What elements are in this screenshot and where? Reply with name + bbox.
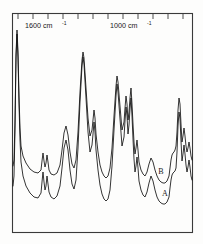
axis-label-1000: 1000 cm xyxy=(110,21,138,30)
axis-ticks xyxy=(18,14,183,20)
axis-label-1600: 1600 cm xyxy=(25,21,53,30)
axis-label-1600-superscript: -1 xyxy=(62,20,67,26)
spectrum-figure: 1600 cm -1 1000 cm -1 B A xyxy=(0,0,203,244)
trace-label-a: A xyxy=(162,189,168,198)
plot-frame xyxy=(13,14,193,233)
spectrum-plot: 1600 cm -1 1000 cm -1 B A xyxy=(0,0,203,244)
spectrum-trace-b xyxy=(13,30,192,183)
axis-label-1000-superscript: -1 xyxy=(147,20,152,26)
trace-label-b: B xyxy=(158,167,163,176)
spectrum-trace-a xyxy=(13,34,192,204)
